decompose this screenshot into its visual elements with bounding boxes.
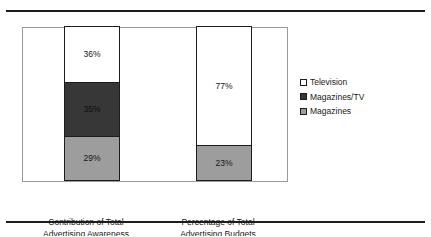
category-label-line: Advertising Budgets	[143, 229, 293, 237]
bar-segment-value-label: 36%	[83, 50, 100, 59]
bottom-divider-rule	[6, 221, 425, 223]
chart-legend: Television Magazines/TV Magazines	[300, 78, 364, 116]
legend-swatch-icon	[300, 79, 307, 86]
bar-segment-magazines-tv[interactable]: 35%	[64, 82, 120, 136]
bar-segment-magazines[interactable]: 29%	[64, 136, 120, 181]
bar-segment-value-label: 77%	[215, 82, 232, 91]
legend-item-label: Television	[310, 78, 347, 87]
legend-item-television[interactable]: Television	[300, 78, 364, 87]
legend-item-magazines[interactable]: Magazines	[300, 107, 364, 116]
plot-area: 36% 35% 29% 77% 23% Contribution of Tota…	[22, 27, 288, 182]
legend-swatch-icon	[300, 108, 307, 115]
legend-item-label: Magazines/TV	[310, 93, 364, 102]
category-label-budgets: Percentage of Total Advertising Budgets	[143, 217, 293, 236]
legend-item-magazines-tv[interactable]: Magazines/TV	[300, 93, 364, 102]
bar-percentage-of-total-advertising-budgets[interactable]: 77% 23%	[196, 26, 252, 181]
bar-segment-television[interactable]: 77%	[196, 26, 252, 145]
stacked-bar-chart-figure: 36% 35% 29% 77% 23% Contribution of Tota…	[0, 0, 431, 236]
bar-segment-value-label: 23%	[215, 159, 232, 168]
bar-contribution-of-total-advertising-awareness[interactable]: 36% 35% 29%	[64, 26, 120, 181]
bar-segment-value-label: 29%	[83, 154, 100, 163]
top-divider-rule	[6, 10, 425, 12]
category-label-line: Advertising Awareness	[11, 229, 161, 237]
bar-segment-television[interactable]: 36%	[64, 26, 120, 82]
category-label-awareness: Contribution of Total Advertising Awaren…	[11, 217, 161, 236]
legend-swatch-icon	[300, 93, 307, 100]
bar-segment-value-label: 35%	[83, 105, 100, 114]
bar-segment-magazines[interactable]: 23%	[196, 145, 252, 181]
legend-item-label: Magazines	[310, 107, 351, 116]
